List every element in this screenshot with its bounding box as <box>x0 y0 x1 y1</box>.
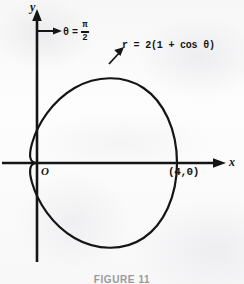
figure-container: y x O (4,0) θ = π 2 r = 2(1 + cos θ) FIG… <box>0 0 244 284</box>
figure-caption: FIGURE 11 <box>0 274 244 284</box>
theta-pointer-arrowhead <box>53 27 62 34</box>
x-axis-arrowhead <box>213 158 226 168</box>
point-label-4-0: (4,0) <box>168 167 199 178</box>
theta-annotation: θ = π 2 <box>63 22 89 44</box>
theta-symbol: θ <box>63 28 69 38</box>
y-axis-label: y <box>30 1 35 13</box>
fraction-denominator: 2 <box>81 33 88 43</box>
origin-label: O <box>41 166 49 177</box>
theta-equals-sign: = <box>72 28 78 38</box>
pi-over-two-fraction: π 2 <box>81 21 89 43</box>
curve-equation-label: r = 2(1 + cos θ) <box>122 41 215 51</box>
fraction-numerator: π <box>81 21 88 31</box>
x-axis-label: x <box>229 156 235 168</box>
